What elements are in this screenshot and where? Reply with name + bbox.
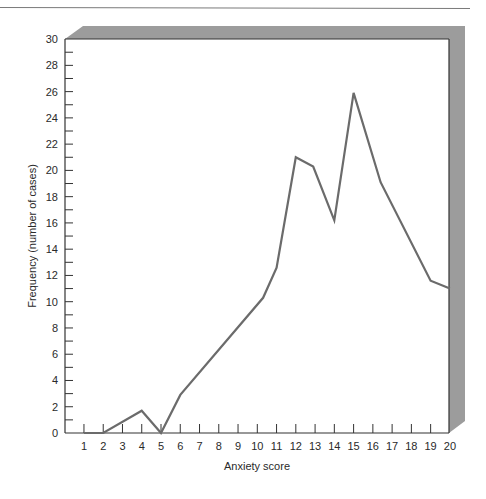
y-tick-label: 4 [52, 374, 58, 386]
y-tick-label: 8 [52, 322, 58, 334]
x-tick-label: 4 [139, 440, 145, 452]
x-tick-label: 12 [290, 440, 302, 452]
y-tick-label: 20 [46, 164, 58, 176]
y-tick-label: 2 [52, 401, 58, 413]
x-tick-label: 17 [386, 440, 398, 452]
x-tick-label: 6 [177, 440, 183, 452]
x-tick-label: 13 [309, 440, 321, 452]
y-tick-label: 16 [46, 217, 58, 229]
x-tick-label: 8 [216, 440, 222, 452]
y-tick-label: 22 [46, 138, 58, 150]
x-tick-label: 9 [235, 440, 241, 452]
x-tick-label: 14 [328, 440, 340, 452]
x-tick-label: 10 [251, 440, 263, 452]
x-tick-label: 2 [100, 440, 106, 452]
x-tick-label: 18 [405, 440, 417, 452]
x-tick-label: 7 [196, 440, 202, 452]
y-tick-label: 10 [46, 296, 58, 308]
y-tick-label: 6 [52, 348, 58, 360]
y-tick-label: 14 [46, 243, 58, 255]
y-tick-label: 18 [46, 191, 58, 203]
x-tick-label: 3 [119, 440, 125, 452]
x-axis-title: Anxiety score [224, 460, 290, 472]
y-tick-label: 26 [46, 86, 58, 98]
y-tick-label: 24 [46, 112, 58, 124]
x-tick-label: 1 [81, 440, 87, 452]
x-tick-label: 11 [271, 440, 282, 452]
x-tick-label: 16 [367, 440, 379, 452]
y-tick-label: 30 [46, 33, 58, 45]
frequency-polygon-chart: 024681012141618202224262830 123456789101… [0, 0, 486, 499]
y-tick-label: 12 [46, 269, 58, 281]
page-rule [0, 8, 470, 9]
plot-area [65, 39, 449, 433]
y-tick-label: 28 [46, 59, 58, 71]
y-axis-title: Frequency (number of cases) [26, 164, 38, 308]
x-tick-label: 15 [347, 440, 359, 452]
x-tick-label: 20 [444, 440, 456, 452]
x-tick-label: 5 [158, 440, 164, 452]
y-tick-label: 0 [52, 427, 58, 439]
x-tick-label: 19 [425, 440, 437, 452]
